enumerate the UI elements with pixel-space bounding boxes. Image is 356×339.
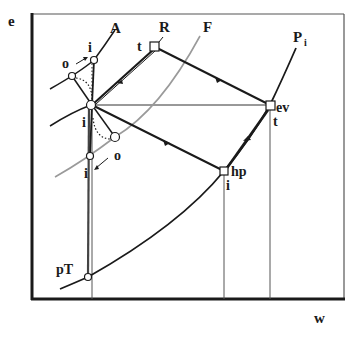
label-upper-i: i bbox=[88, 40, 92, 55]
x-axis-label: w bbox=[314, 310, 325, 326]
label-R-state: t bbox=[137, 39, 142, 54]
curve-label-R: R bbox=[159, 19, 170, 35]
arrow-icon bbox=[215, 77, 222, 83]
curve-label-A: A bbox=[110, 20, 121, 36]
curve-F bbox=[55, 36, 200, 177]
state-nodes bbox=[69, 42, 276, 281]
label-hp: hp bbox=[231, 164, 247, 179]
path-R-to-ev bbox=[157, 48, 268, 104]
curve-label-F: F bbox=[203, 19, 212, 35]
curve-label-Pi-sub: i bbox=[304, 37, 307, 48]
node-pT bbox=[85, 274, 92, 281]
node-upper-i bbox=[91, 57, 98, 64]
node-upper-o bbox=[69, 73, 76, 80]
arrow-icon bbox=[163, 140, 170, 146]
path-center-to-R bbox=[92, 50, 155, 105]
label-lower-o: o bbox=[114, 148, 121, 163]
node-R bbox=[150, 42, 159, 51]
label-ev-state: t bbox=[273, 114, 278, 129]
node-hp bbox=[220, 167, 228, 175]
R-leader bbox=[159, 37, 163, 42]
curve-A-upper bbox=[50, 30, 115, 89]
mixing-fan-upper bbox=[72, 60, 94, 105]
label-center-i: i bbox=[82, 115, 86, 130]
node-ev bbox=[266, 101, 275, 110]
label-upper-o: o bbox=[62, 56, 69, 71]
diagram-canvas: e w A R F P i t ev t hp i pT o i i o i bbox=[0, 0, 356, 339]
arrow-o-to-i-lower bbox=[96, 158, 108, 168]
node-lower-i bbox=[87, 153, 94, 160]
y-axis-label: e bbox=[8, 13, 15, 29]
label-lower-i: i bbox=[84, 166, 88, 181]
label-ev: ev bbox=[276, 100, 289, 115]
node-center bbox=[87, 101, 96, 110]
node-lower-o bbox=[111, 133, 120, 142]
mixing-fan-lower bbox=[90, 105, 115, 156]
label-pT: pT bbox=[56, 262, 74, 277]
curve-label-Pi: P bbox=[293, 29, 302, 45]
label-hp-state: i bbox=[226, 178, 230, 193]
